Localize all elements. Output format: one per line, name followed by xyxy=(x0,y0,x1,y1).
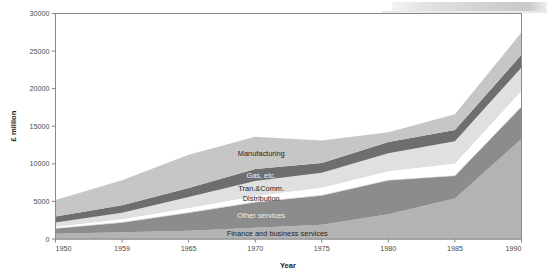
x-tick-label: 1950 xyxy=(56,244,72,253)
y-tick-label: 10000 xyxy=(30,159,50,168)
top-decoration-line xyxy=(382,11,547,13)
stacked-area-chart-svg: 050001000015000200002500030000 195019591… xyxy=(0,0,547,277)
series-label-tran-comm: Tran.&Comm. xyxy=(238,184,284,193)
x-tick-label: 1985 xyxy=(447,244,463,253)
x-tick-label: 1975 xyxy=(314,244,330,253)
y-tick-label: 20000 xyxy=(30,84,50,93)
x-axis-title: Year xyxy=(280,261,296,270)
x-tick-label: 1980 xyxy=(380,244,396,253)
series-label-distribution: Distribution xyxy=(243,194,280,203)
y-tick-label: 0 xyxy=(46,235,50,244)
x-tick-label: 1965 xyxy=(181,244,197,253)
series-label-finance-and-business-services: Finance and business services xyxy=(227,229,328,238)
chart-figure: 050001000015000200002500030000 195019591… xyxy=(0,0,547,277)
y-axis-title: £ million xyxy=(9,110,18,141)
series-label-gas-etc: Gas, etc. xyxy=(246,171,276,180)
x-tick-label: 1990 xyxy=(506,244,522,253)
y-tick-label: 30000 xyxy=(30,9,50,18)
y-tick-label: 5000 xyxy=(34,197,50,206)
top-decoration-band xyxy=(392,2,547,11)
y-tick-label: 25000 xyxy=(30,47,50,56)
x-tick-label: 1959 xyxy=(114,244,130,253)
x-tick-label: 1970 xyxy=(247,244,263,253)
series-label-manufacturing: Manufacturing xyxy=(238,149,285,158)
series-label-other-services: Other services xyxy=(237,211,285,220)
y-tick-label: 15000 xyxy=(30,122,50,131)
